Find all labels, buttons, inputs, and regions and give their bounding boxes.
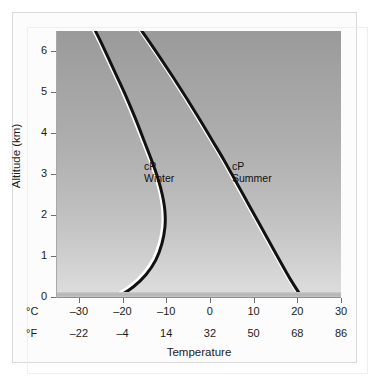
y-axis-label: Altitude (km) <box>10 96 22 216</box>
y-tick-label: 6 <box>17 45 47 56</box>
x-tick <box>254 298 255 303</box>
x-tick <box>79 298 80 303</box>
x-tick-label-celsius: –20 <box>100 305 146 317</box>
x-tick <box>210 298 211 303</box>
series-label-winter-line1: cP <box>144 160 174 172</box>
x-axis-unit-fahrenheit: °F <box>26 327 37 339</box>
y-tick <box>51 297 56 298</box>
plot-area <box>57 31 341 297</box>
y-tick <box>51 133 56 134</box>
x-tick-label-celsius: –10 <box>143 305 189 317</box>
y-axis-line <box>56 31 57 298</box>
x-tick <box>166 298 167 303</box>
x-tick-label-fahrenheit: –4 <box>100 327 146 339</box>
y-tick <box>51 174 56 175</box>
x-tick <box>297 298 298 303</box>
x-tick-label-fahrenheit: 86 <box>318 327 364 339</box>
series-label-summer-line1: cP <box>232 160 272 172</box>
x-tick-label-celsius: 30 <box>318 305 364 317</box>
x-tick-label-celsius: 20 <box>274 305 320 317</box>
y-tick-label: 0 <box>17 291 47 302</box>
x-tick-label-fahrenheit: 50 <box>231 327 277 339</box>
x-tick-label-fahrenheit: 14 <box>143 327 189 339</box>
x-axis-unit-celsius: °C <box>26 305 38 317</box>
series-label-winter-line2: Winter <box>144 172 174 184</box>
x-tick-label-fahrenheit: –22 <box>56 327 102 339</box>
series-label-summer-line2: Summer <box>232 172 272 184</box>
x-tick <box>123 298 124 303</box>
x-tick-label-celsius: –30 <box>56 305 102 317</box>
x-tick-label-celsius: 0 <box>187 305 233 317</box>
x-tick-label-fahrenheit: 32 <box>187 327 233 339</box>
y-tick <box>51 51 56 52</box>
x-tick-label-celsius: 10 <box>231 305 277 317</box>
x-tick-label-fahrenheit: 68 <box>274 327 320 339</box>
series-label-winter: cP Winter <box>144 160 174 184</box>
y-tick <box>51 215 56 216</box>
y-tick <box>51 256 56 257</box>
y-tick <box>51 92 56 93</box>
series-label-summer: cP Summer <box>232 160 272 184</box>
y-tick-label: 1 <box>17 250 47 261</box>
plot-curves <box>57 31 341 297</box>
x-axis-label: Temperature <box>57 346 341 358</box>
figure-container: 0123456 –30–22–20–4–1014032105020683086 … <box>0 0 369 380</box>
surface-line <box>57 297 341 298</box>
x-tick <box>341 298 342 303</box>
